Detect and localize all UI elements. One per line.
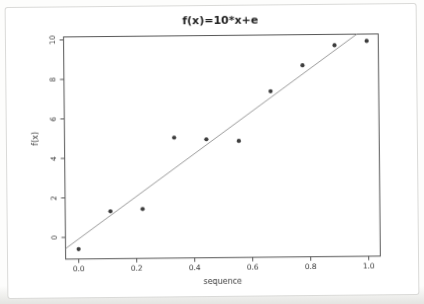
data-point (108, 209, 112, 213)
scatter-plot-canvas: 0.00.20.40.60.81.00246810 (0, 0, 424, 304)
y-tick-label: 2 (50, 195, 59, 200)
y-axis-label: f(x) (31, 119, 43, 159)
x-tick-label: 0.8 (305, 262, 317, 271)
x-tick-label: 0.2 (131, 264, 143, 273)
x-tick-label: 1.0 (363, 262, 375, 271)
data-point (332, 43, 336, 47)
data-point (237, 139, 241, 143)
x-tick-label: 0.4 (189, 263, 201, 272)
regression-line (64, 34, 359, 248)
data-point (141, 207, 145, 211)
data-point (172, 135, 176, 139)
y-tick-label: 0 (50, 235, 59, 240)
y-tick-label: 8 (48, 77, 57, 82)
x-tick-label: 0.0 (73, 264, 85, 273)
y-tick-label: 4 (49, 156, 58, 161)
plot-area: 0.00.20.40.60.81.00246810 f(x)=10*x+e se… (6, 4, 419, 298)
data-point (268, 89, 272, 93)
y-tick-label: 10 (48, 35, 57, 45)
data-point (77, 247, 81, 251)
x-tick-label: 0.6 (247, 263, 259, 272)
y-tick-label: 6 (49, 116, 58, 121)
data-point (365, 39, 369, 43)
data-point (300, 63, 304, 67)
data-point (204, 137, 208, 141)
plot-card: 0.00.20.40.60.81.00246810 f(x)=10*x+e se… (5, 3, 420, 299)
scanned-page-background: 0.00.20.40.60.81.00246810 f(x)=10*x+e se… (0, 0, 424, 304)
plot-frame (64, 34, 381, 259)
